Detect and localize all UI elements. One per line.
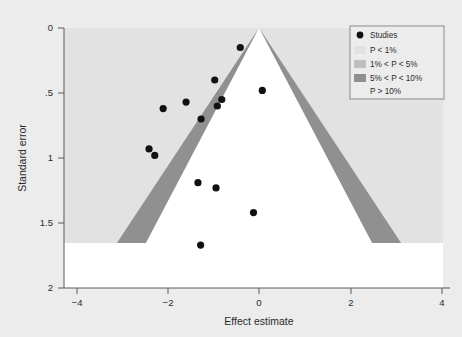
legend-swatch-p-1-to-5 <box>354 60 366 68</box>
x-tick-label-4: 4 <box>439 297 444 308</box>
legend-swatch-p-lt-1 <box>354 46 366 54</box>
study-point <box>214 102 221 109</box>
funnel-plot-canvas: 0 .5 1 1.5 2 −4 −2 0 2 4 Effect estimate… <box>0 0 462 337</box>
x-tick-label-neg4: −4 <box>72 297 83 308</box>
x-axis-title: Effect estimate <box>224 315 293 327</box>
funnel-plot-figure: 0 .5 1 1.5 2 −4 −2 0 2 4 Effect estimate… <box>0 0 462 337</box>
panel-below-contours <box>64 243 443 288</box>
legend-marker-studies-icon <box>357 32 364 39</box>
study-point <box>194 179 201 186</box>
legend-label-p-1-to-5: 1% < P < 5% <box>370 60 418 69</box>
study-point <box>237 44 244 51</box>
study-point <box>151 152 158 159</box>
y-axis-title: Standard error <box>16 124 28 192</box>
legend-label-p-lt-1: P < 1% <box>370 46 396 55</box>
y-tick-label-0-5: .5 <box>45 87 53 98</box>
y-tick-label-0: 0 <box>48 22 53 33</box>
legend-label-p-5-to-10: 5% < P < 10% <box>370 74 422 83</box>
x-tick-label-neg2: −2 <box>163 297 174 308</box>
study-point <box>218 96 225 103</box>
legend-label-p-gt-10: P > 10% <box>370 87 401 96</box>
study-point <box>250 209 257 216</box>
study-point <box>145 145 152 152</box>
legend-label-studies: Studies <box>370 31 397 40</box>
x-tick-label-2: 2 <box>348 297 353 308</box>
study-point <box>197 115 204 122</box>
legend: Studies P < 1% 1% < P < 5% 5% < P < 10% … <box>350 26 444 99</box>
y-tick-label-1-5: 1.5 <box>40 217 53 228</box>
study-point <box>197 242 204 249</box>
study-point <box>212 184 219 191</box>
study-point <box>160 105 167 112</box>
y-tick-label-2: 2 <box>48 282 53 293</box>
y-tick-label-1: 1 <box>48 152 53 163</box>
legend-swatch-p-5-to-10 <box>354 74 366 82</box>
x-tick-label-0: 0 <box>256 297 261 308</box>
study-point <box>182 99 189 106</box>
study-point <box>259 87 266 94</box>
study-point <box>211 76 218 83</box>
